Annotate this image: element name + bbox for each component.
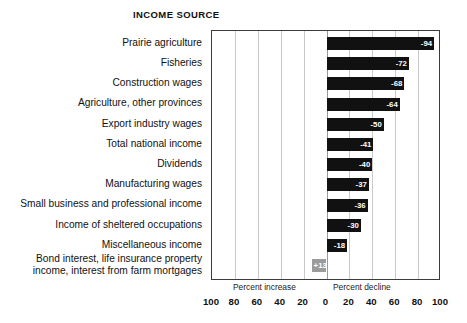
category-label: Bond interest, life insurance property i…: [0, 253, 206, 276]
bar-value-label: -18: [329, 239, 345, 252]
tick-label: 80: [229, 296, 240, 307]
axis-caption-percent-decline: Percent decline: [333, 282, 391, 292]
category-label: Fisheries: [0, 57, 206, 68]
bar-value-label: -41: [355, 138, 371, 151]
plot-area: -94-72-68-64-50-41-40-37-36-30-18+13: [211, 30, 440, 280]
category-label-column: Prairie agricultureFisheriesConstruction…: [0, 30, 206, 280]
tick-label: 0: [323, 296, 328, 307]
category-label: Miscellaneous income: [0, 239, 206, 250]
gridline: [304, 31, 305, 279]
tick-label: 20: [343, 296, 354, 307]
tick-label: 100: [432, 296, 448, 307]
gridline: [258, 31, 259, 279]
tick-label: 40: [366, 296, 377, 307]
category-label: Income of sheltered occupations: [0, 219, 206, 230]
bar-value-label: -40: [354, 158, 370, 171]
tick-label: 40: [274, 296, 285, 307]
tick-label: 60: [389, 296, 400, 307]
category-label: Manufacturing wages: [0, 178, 206, 189]
tick-label: 100: [203, 296, 219, 307]
category-label: Export industry wages: [0, 118, 206, 129]
x-axis-tick-labels: 10080604020020406080100: [211, 296, 440, 312]
bar-value-label: -36: [350, 199, 366, 212]
category-label: Agriculture, other provinces: [0, 97, 206, 108]
category-label: Prairie agriculture: [0, 37, 206, 48]
axis-caption-percent-increase: Percent increase: [233, 282, 296, 292]
tick-label: 80: [412, 296, 423, 307]
bar-value-label: -50: [366, 118, 382, 131]
bar-value-label: -68: [386, 77, 402, 90]
gridline: [418, 31, 419, 279]
gridline: [281, 31, 282, 279]
bar-value-label: +13: [314, 259, 327, 272]
chart-title: INCOME SOURCE: [133, 9, 219, 20]
tick-label: 20: [297, 296, 308, 307]
bar-value-label: -64: [382, 98, 398, 111]
tick-label: 60: [251, 296, 262, 307]
income-source-bar-chart: INCOME SOURCE Prairie agricultureFisheri…: [0, 0, 467, 323]
category-label: Small business and professional income: [0, 198, 206, 209]
bar-value-label: -37: [351, 178, 367, 191]
bar-value-label: -30: [343, 219, 359, 232]
bar-value-label: -94: [416, 37, 432, 50]
category-label: Dividends: [0, 158, 206, 169]
category-label: Construction wages: [0, 77, 206, 88]
category-label: Total national income: [0, 138, 206, 149]
gridline: [235, 31, 236, 279]
axis-caption-row: Percent increase Percent decline: [211, 282, 440, 295]
bar-value-label: -72: [391, 57, 407, 70]
